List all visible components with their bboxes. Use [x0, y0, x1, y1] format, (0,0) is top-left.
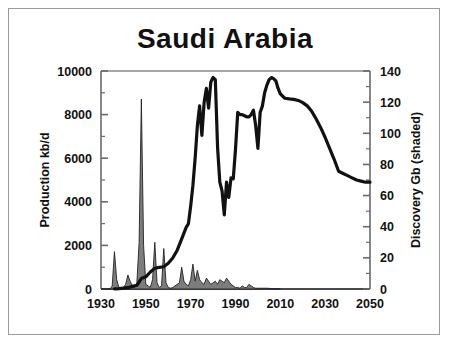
- x-tick-label: 1930: [87, 297, 115, 311]
- y-tick-label-left: 2000: [64, 239, 92, 253]
- y-tick-label-left: 0: [85, 283, 92, 297]
- x-tick-label: 2030: [311, 297, 339, 311]
- x-tick-label: 1990: [222, 297, 250, 311]
- x-tick-label: 2010: [266, 297, 294, 311]
- y-tick-label-left: 8000: [64, 108, 92, 122]
- y-tick-label-left: 4000: [64, 195, 92, 209]
- y-tick-label-right: 60: [380, 189, 394, 203]
- y-tick-label-right: 100: [380, 127, 401, 141]
- x-tick-label: 1950: [132, 297, 160, 311]
- y-tick-label-left: 6000: [64, 152, 92, 166]
- y-axis-title-right: Discovery Gb (shaded): [409, 112, 423, 248]
- figure-border: Saudi Arabia 020004000600080001000002040…: [8, 8, 440, 335]
- x-tick-label: 2050: [356, 297, 384, 311]
- y-tick-label-right: 80: [380, 158, 394, 172]
- y-tick-label-right: 0: [380, 283, 387, 297]
- y-tick-label-right: 20: [380, 251, 394, 265]
- x-tick-label: 1970: [177, 297, 205, 311]
- y-tick-label-right: 120: [380, 96, 401, 110]
- chart-svg: 0200040006000800010000020406080100120140…: [9, 9, 441, 336]
- y-tick-label-left: 10000: [57, 65, 92, 79]
- chart-canvas: 0200040006000800010000020406080100120140…: [9, 9, 441, 336]
- y-axis-title-left: Production kb/d: [38, 132, 52, 227]
- y-tick-label-right: 140: [380, 65, 401, 79]
- y-tick-label-right: 40: [380, 220, 394, 234]
- production-line: [114, 78, 370, 289]
